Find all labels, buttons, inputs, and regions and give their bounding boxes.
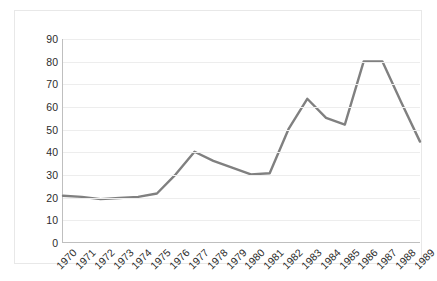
y-axis-tick-label: 0 <box>18 238 58 249</box>
gridline <box>63 198 420 199</box>
y-axis-tick-label: 60 <box>18 102 58 113</box>
gridline <box>63 84 420 85</box>
chart-container: 0102030405060708090 19701971197219731974… <box>0 0 437 281</box>
gridline <box>63 39 420 40</box>
y-axis-tick-label: 80 <box>18 56 58 67</box>
y-axis-tick-label: 10 <box>18 215 58 226</box>
gridline <box>63 130 420 131</box>
gridline <box>63 220 420 221</box>
gridline <box>63 175 420 176</box>
line-series <box>63 39 420 242</box>
y-axis-tick-label: 40 <box>18 147 58 158</box>
x-axis: 1970197119721973197419751976197719781979… <box>62 245 420 281</box>
y-axis-tick-label: 70 <box>18 79 58 90</box>
plot-area <box>62 39 420 243</box>
gridline <box>63 152 420 153</box>
gridline <box>63 62 420 63</box>
y-axis-tick-label: 20 <box>18 192 58 203</box>
chart-frame: 0102030405060708090 19701971197219731974… <box>14 10 422 264</box>
y-axis-tick-label: 50 <box>18 124 58 135</box>
y-axis-tick-label: 90 <box>18 34 58 45</box>
y-axis-tick-label: 30 <box>18 170 58 181</box>
gridline <box>63 107 420 108</box>
y-axis: 0102030405060708090 <box>15 39 58 243</box>
